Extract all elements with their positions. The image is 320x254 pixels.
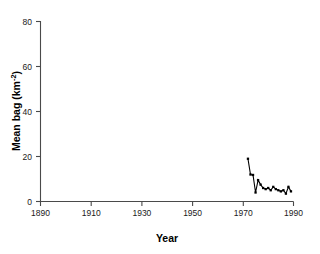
data-point	[275, 188, 277, 190]
x-tick-label-1990: 1990	[284, 208, 303, 218]
data-point	[282, 189, 284, 191]
data-point	[267, 187, 269, 189]
data-point	[280, 190, 282, 192]
data-point	[259, 183, 261, 185]
x-tick-label-1950: 1950	[183, 208, 202, 218]
data-point	[287, 186, 289, 188]
y-tick-label-60: 60	[23, 62, 33, 72]
data-point	[247, 158, 249, 160]
x-axis-title: Year	[156, 232, 178, 244]
y-axis-title-exponent: -2	[9, 74, 18, 81]
y-tick-label-80: 80	[23, 17, 33, 27]
data-point	[277, 189, 279, 191]
data-point	[257, 179, 259, 181]
data-point	[270, 189, 272, 191]
chart-figure: 0 20 40 60 80 Mean bag (km-2) 1890 1910 …	[0, 0, 320, 254]
y-tick-label-20: 20	[23, 152, 33, 162]
data-point	[290, 190, 292, 192]
x-tick-label-1910: 1910	[82, 208, 101, 218]
y-axis-title: Mean bag (km-2)	[9, 71, 23, 151]
data-point	[249, 173, 251, 175]
data-point	[254, 191, 256, 193]
x-tick-label-1890: 1890	[31, 208, 50, 218]
y-tick-label-40: 40	[23, 107, 33, 117]
data-point	[252, 174, 254, 176]
data-point	[262, 187, 264, 189]
data-point	[272, 186, 274, 188]
y-tick-label-0: 0	[27, 197, 32, 207]
svg-text:Mean bag (km-2): Mean bag (km-2)	[9, 71, 23, 151]
x-tick-label-1970: 1970	[234, 208, 253, 218]
data-point	[265, 188, 267, 190]
line-chart: 0 20 40 60 80 Mean bag (km-2) 1890 1910 …	[0, 0, 320, 254]
y-axis-title-main: Mean bag (km	[10, 81, 22, 151]
data-point	[285, 192, 287, 194]
x-tick-label-1930: 1930	[132, 208, 151, 218]
y-axis-title-suffix: )	[10, 71, 22, 75]
